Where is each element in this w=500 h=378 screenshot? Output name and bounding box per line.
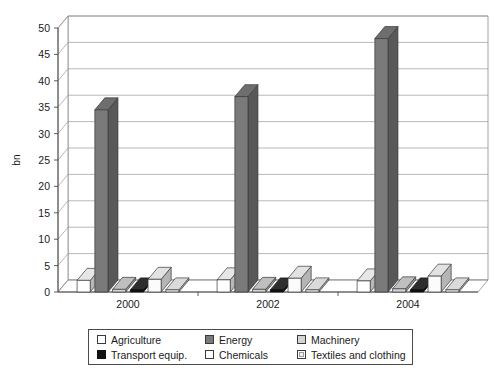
y-tick-label: 45 — [22, 48, 50, 60]
legend-item[interactable]: Energy — [205, 334, 297, 346]
legend-label: Machinery — [311, 334, 359, 346]
legend-label: Agriculture — [111, 334, 161, 346]
y-tick-label: 0 — [22, 286, 50, 298]
bar-chart: bn 05101520253035404550 200020022004 Agr… — [0, 0, 500, 378]
legend-item[interactable]: Agriculture — [97, 334, 205, 346]
y-tick-label: 35 — [22, 101, 50, 113]
legend-swatch-icon — [205, 350, 214, 359]
plot-svg — [0, 0, 500, 320]
y-tick-label: 20 — [22, 180, 50, 192]
y-tick-label: 40 — [22, 75, 50, 87]
legend-label: Energy — [219, 334, 252, 346]
legend-swatch-icon — [297, 335, 306, 344]
y-tick-label: 10 — [22, 233, 50, 245]
legend-item[interactable]: Machinery — [297, 334, 422, 346]
legend-swatch-icon — [205, 335, 214, 344]
legend-swatch-icon — [97, 335, 106, 344]
plot-area — [0, 0, 500, 320]
y-tick-label: 25 — [22, 154, 50, 166]
y-tick-label: 15 — [22, 207, 50, 219]
y-tick-label: 50 — [22, 22, 50, 34]
legend-item[interactable]: Textiles and clothing — [297, 349, 422, 361]
legend-swatch-icon — [97, 350, 106, 359]
legend-label: Chemicals — [219, 349, 268, 361]
legend-item[interactable]: Chemicals — [205, 349, 297, 361]
y-tick-label: 30 — [22, 128, 50, 140]
legend: AgricultureEnergyMachineryTransport equi… — [88, 329, 413, 365]
legend-label: Textiles and clothing — [311, 349, 406, 361]
legend-swatch-icon — [297, 350, 306, 359]
x-tick-label: 2002 — [256, 298, 279, 310]
legend-label: Transport equip. — [111, 349, 187, 361]
legend-item[interactable]: Transport equip. — [97, 349, 205, 361]
x-tick-label: 2004 — [396, 298, 419, 310]
x-tick-label: 2000 — [116, 298, 139, 310]
y-tick-label: 5 — [22, 260, 50, 272]
